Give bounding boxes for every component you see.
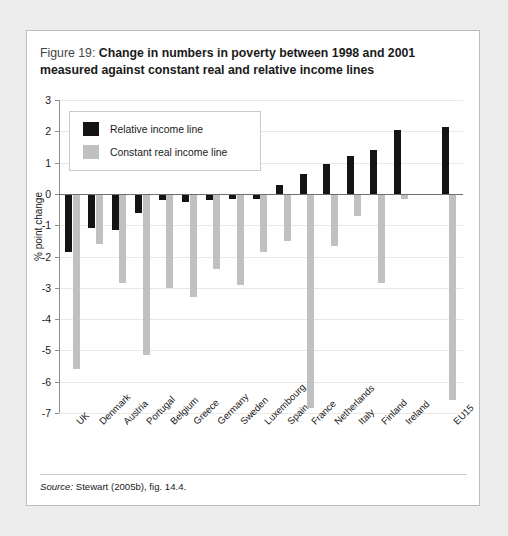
bar-relative-greece — [182, 194, 189, 202]
source-note: Source: Stewart (2005b), fig. 14.4. — [40, 481, 186, 492]
bar-relative-spain — [276, 185, 283, 194]
bar-constant-austria — [119, 194, 126, 283]
y-axis-tick-label: -4 — [42, 313, 51, 325]
legend-item-constant: Constant real income line — [83, 144, 227, 160]
bar-relative-finland — [370, 150, 377, 194]
bar-constant-spain — [284, 194, 291, 241]
y-axis-tick-label: -2 — [42, 251, 51, 263]
bar-constant-sweden — [237, 194, 244, 285]
bar-constant-uk — [73, 194, 80, 369]
source-divider — [40, 474, 467, 475]
gridline — [59, 413, 463, 414]
bar-relative-denmark — [88, 194, 95, 228]
bar-relative-eu15 — [442, 127, 449, 194]
gridline — [59, 382, 463, 383]
y-axis-tick-label: 3 — [45, 94, 51, 106]
legend-label-relative: Relative income line — [110, 124, 203, 135]
bar-relative-netherlands — [323, 164, 330, 194]
bar-constant-germany — [213, 194, 220, 269]
source-text: Stewart (2005b), fig. 14.4. — [73, 481, 186, 492]
gridline — [59, 319, 463, 320]
bar-relative-austria — [112, 194, 119, 230]
bar-constant-france — [307, 194, 314, 408]
bar-constant-luxembourg — [260, 194, 267, 252]
y-axis-tick-label: 1 — [45, 157, 51, 169]
gridline — [59, 100, 463, 101]
bar-constant-greece — [190, 194, 197, 297]
gridline — [59, 350, 463, 351]
bar-relative-portugal — [135, 194, 142, 213]
bar-constant-finland — [378, 194, 385, 283]
y-axis-tick-label: 2 — [45, 125, 51, 137]
legend-swatch-constant-icon — [83, 145, 99, 159]
x-axis-tick-label: EU15 — [451, 402, 476, 427]
y-axis-tick-label: 0 — [45, 188, 51, 200]
x-axis-tick-label: Italy — [356, 407, 376, 427]
chart-plot-wrapper: % point change 3210-1-2-3-4-5-6-7 UKDenm… — [27, 31, 481, 507]
bar-relative-italy — [347, 156, 354, 194]
y-axis-line — [59, 100, 60, 413]
y-axis-tick-label: -3 — [42, 282, 51, 294]
y-axis-tick-mark — [55, 413, 59, 414]
figure-box: Figure 19: Change in numbers in poverty … — [26, 30, 480, 506]
y-axis-tick-label: -7 — [42, 407, 51, 419]
chart-legend: Relative income line Constant real incom… — [69, 111, 261, 171]
gridline — [59, 288, 463, 289]
y-axis-tick-label: -5 — [42, 344, 51, 356]
bar-constant-belgium — [166, 194, 173, 288]
y-axis-tick-label: -1 — [42, 219, 51, 231]
y-axis-tick-label: -6 — [42, 376, 51, 388]
bar-constant-denmark — [96, 194, 103, 244]
bar-relative-france — [300, 174, 307, 194]
x-axis-tick-label: Finland — [379, 397, 409, 427]
legend-swatch-relative-icon — [83, 122, 99, 136]
bar-constant-italy — [354, 194, 361, 216]
bar-constant-eu15 — [449, 194, 456, 401]
bar-constant-portugal — [143, 194, 150, 355]
zero-axis-line — [59, 194, 463, 195]
legend-item-relative: Relative income line — [83, 121, 203, 137]
bar-constant-netherlands — [331, 194, 338, 246]
bar-relative-uk — [65, 194, 72, 252]
source-label: Source: — [40, 481, 73, 492]
bar-relative-ireland — [394, 130, 401, 194]
legend-label-constant: Constant real income line — [110, 147, 227, 158]
